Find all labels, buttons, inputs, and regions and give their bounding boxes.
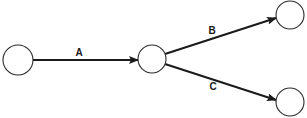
- node-start: [3, 45, 33, 75]
- edge-label-a: A: [75, 48, 82, 58]
- edge-b-arrow: [165, 18, 276, 54]
- activity-network-diagram: [0, 0, 307, 118]
- node-top-right: [276, 1, 304, 29]
- node-bottom-right: [276, 88, 304, 116]
- edge-label-b: B: [208, 26, 215, 36]
- edge-c-arrow: [165, 64, 276, 100]
- edge-label-c: C: [209, 82, 216, 92]
- node-middle: [138, 45, 166, 73]
